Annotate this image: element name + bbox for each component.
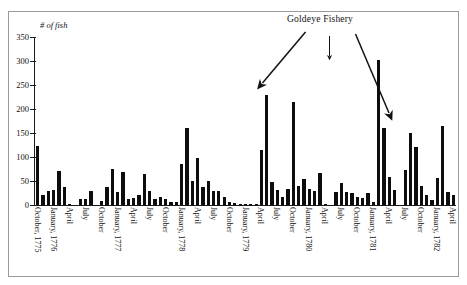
bar-series <box>35 37 456 205</box>
bar <box>372 202 375 205</box>
bar <box>185 128 188 205</box>
bar <box>446 192 449 205</box>
bar <box>191 181 194 205</box>
bar <box>153 199 156 205</box>
x-axis-tick-label: January, 1778 <box>177 207 185 251</box>
bar <box>89 191 92 205</box>
bar <box>180 164 183 205</box>
bar <box>340 183 343 205</box>
bar <box>318 173 321 205</box>
bar <box>430 200 433 205</box>
bar <box>414 147 417 205</box>
bar <box>84 199 87 205</box>
y-axis-tick-label: 200 <box>11 105 29 114</box>
bar <box>452 195 455 205</box>
bar <box>228 202 231 205</box>
figure-container: # of fish Goldeye Fishery 05010015020025… <box>0 0 467 285</box>
bar <box>265 95 268 205</box>
bar <box>41 195 44 205</box>
y-axis-tick-label: 50 <box>11 177 29 186</box>
bar <box>68 204 71 205</box>
bar <box>356 197 359 205</box>
bar <box>366 193 369 205</box>
bar <box>297 186 300 205</box>
bar <box>121 172 124 205</box>
bar <box>441 126 444 205</box>
bar <box>201 187 204 205</box>
x-axis-tick-label: July <box>81 207 89 220</box>
bar <box>143 174 146 205</box>
bar <box>436 178 439 205</box>
bar <box>217 191 220 205</box>
bar <box>361 198 364 205</box>
bar <box>116 192 119 205</box>
x-axis-tick-label: April <box>384 207 392 224</box>
bar <box>404 170 407 205</box>
bar <box>223 197 226 205</box>
bar <box>105 187 108 205</box>
y-axis-tick-label: 100 <box>11 153 29 162</box>
bar <box>196 158 199 205</box>
bar <box>63 187 66 205</box>
bar <box>233 203 236 205</box>
x-axis-tick-label: July <box>336 207 344 220</box>
y-axis-tick <box>30 205 36 206</box>
y-axis-title: # of fish <box>40 20 67 30</box>
x-axis-tick-label: July <box>400 207 408 220</box>
bar <box>127 199 130 205</box>
x-axis-tick-labels: October, 1775January, 1776AprilJulyOctob… <box>35 207 456 277</box>
bar <box>79 199 82 205</box>
x-axis-tick-label: January, 1779 <box>241 207 249 251</box>
bar <box>276 190 279 205</box>
bar <box>388 177 391 205</box>
y-axis-tick-label: 350 <box>11 33 29 42</box>
x-axis-tick-label: April <box>65 207 73 224</box>
bar <box>324 204 327 205</box>
bar <box>382 128 385 205</box>
bar <box>137 195 140 205</box>
x-axis-tick-label: January, 1782 <box>432 207 440 251</box>
bar <box>302 179 305 205</box>
bar <box>393 190 396 205</box>
bar <box>409 133 412 205</box>
bar <box>255 204 258 205</box>
x-axis-tick-label: October <box>416 207 424 233</box>
bar <box>308 189 311 205</box>
x-axis-tick-label: April <box>320 207 328 224</box>
bar <box>239 204 242 205</box>
bar <box>345 192 348 205</box>
x-axis-tick-label: October <box>225 207 233 233</box>
bar <box>207 181 210 205</box>
annotation-title: Goldeye Fishery <box>287 14 353 24</box>
bar <box>175 202 178 205</box>
x-axis-tick-label: October <box>352 207 360 233</box>
x-axis-tick-label: April <box>448 207 456 224</box>
x-axis-tick-label: July <box>272 207 280 220</box>
x-axis-tick-label: April <box>129 207 137 224</box>
x-axis-line <box>34 205 456 206</box>
bar <box>164 199 167 205</box>
y-axis-tick-label: 0 <box>11 201 29 210</box>
bar <box>292 102 295 205</box>
bar <box>420 186 423 205</box>
bar <box>281 197 284 205</box>
bar <box>57 171 60 205</box>
bar <box>159 197 162 205</box>
bar <box>286 189 289 205</box>
x-axis-tick-label: April <box>193 207 201 224</box>
bar <box>148 191 151 205</box>
bar <box>244 204 247 205</box>
x-axis-tick-label: January, 1776 <box>49 207 57 251</box>
bar <box>132 198 135 205</box>
x-axis-tick-label: October <box>97 207 105 233</box>
bar <box>111 169 114 205</box>
bar <box>350 193 353 205</box>
bar <box>36 146 39 205</box>
y-axis-tick-label: 150 <box>11 129 29 138</box>
bar <box>334 192 337 205</box>
bar <box>169 202 172 205</box>
x-axis-tick-label: January, 1780 <box>304 207 312 251</box>
bar <box>270 182 273 205</box>
bar <box>212 191 215 205</box>
x-axis-tick-label: January, 1781 <box>368 207 376 251</box>
